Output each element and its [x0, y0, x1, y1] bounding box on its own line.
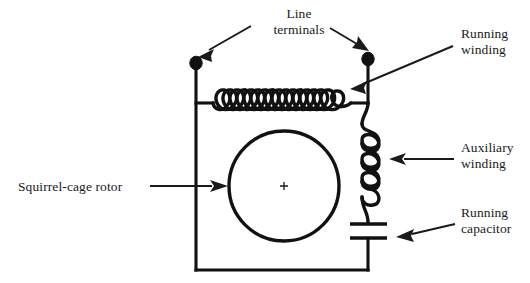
auxiliary-winding-top-lead: [362, 103, 368, 124]
running-capacitor-arrowhead: [396, 229, 414, 242]
running-winding-arrowhead: [350, 81, 367, 94]
label-running-winding-line1: Running: [461, 26, 508, 41]
auxiliary-winding-leader: [389, 153, 454, 165]
figure-canvas: Line terminals Running winding Auxiliary…: [0, 0, 530, 283]
rotor-center-cross-mark: [280, 182, 288, 190]
auxiliary-winding-arrowhead: [389, 153, 406, 165]
label-running-winding-line2: winding: [461, 42, 506, 57]
auxiliary-winding-component: [362, 103, 379, 222]
running-winding-leader-line: [363, 46, 453, 84]
running-capacitor-leader-line: [412, 224, 455, 234]
label-running-capacitor-line2: capacitor: [461, 221, 512, 236]
right-line-terminal-dot: [362, 52, 374, 66]
label-line-terminals-line2: terminals: [273, 22, 324, 37]
squirrel-cage-rotor-component: [229, 131, 339, 241]
running-capacitor-leader: [396, 224, 455, 242]
line-terminals-group: [190, 52, 374, 70]
auxiliary-winding-bottom-lead: [362, 197, 368, 222]
line-terminals-right-leader: [330, 28, 369, 51]
running-capacitor-component: [350, 224, 387, 238]
running-winding-coil-d: [293, 90, 351, 110]
left-line-terminal-dot: [190, 56, 202, 70]
motor-schematic-svg: Line terminals Running winding Auxiliary…: [0, 0, 530, 283]
line-terminals-right-leader-line: [330, 28, 357, 44]
label-line-terminals-line1: Line: [286, 6, 311, 21]
label-auxiliary-winding-line2: winding: [461, 156, 506, 171]
label-auxiliary-winding-line1: Auxiliary: [461, 140, 514, 155]
squirrel-cage-rotor-arrowhead: [210, 180, 228, 192]
label-squirrel-cage-rotor: Squirrel-cage rotor: [18, 179, 123, 194]
running-winding-component: [196, 90, 368, 110]
label-running-capacitor-line1: Running: [461, 205, 508, 220]
squirrel-cage-rotor-leader: [150, 180, 228, 192]
line-terminals-left-leader: [198, 26, 251, 62]
line-terminals-left-leader-line: [209, 26, 251, 50]
